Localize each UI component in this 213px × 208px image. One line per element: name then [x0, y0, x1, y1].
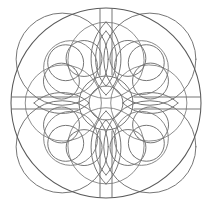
mandala-artwork: Mandala Coloring Page: [0, 0, 213, 208]
